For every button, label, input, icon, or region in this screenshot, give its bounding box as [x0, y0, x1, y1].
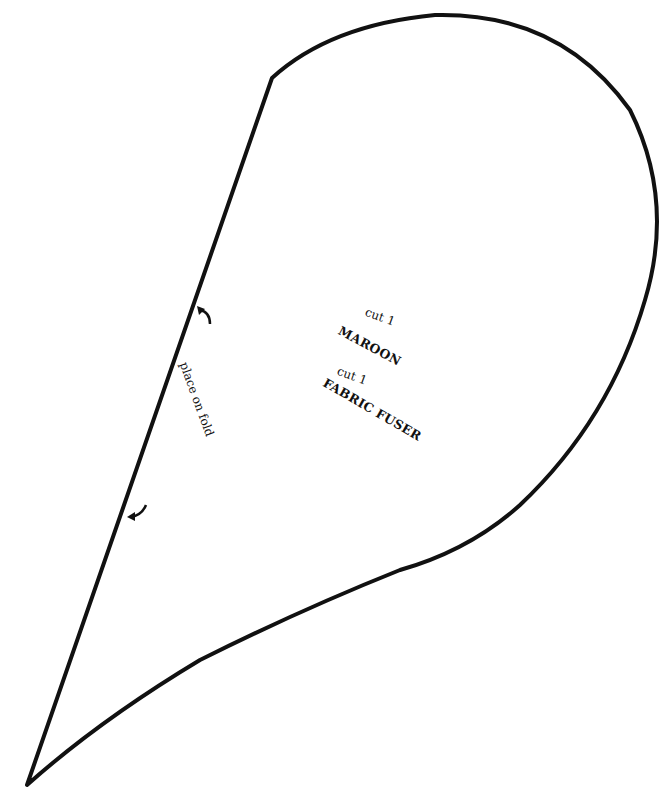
pattern-piece: [0, 0, 670, 806]
fold-arrow-bottom-icon: [127, 505, 146, 521]
fold-arrow-top-icon: [197, 306, 210, 324]
